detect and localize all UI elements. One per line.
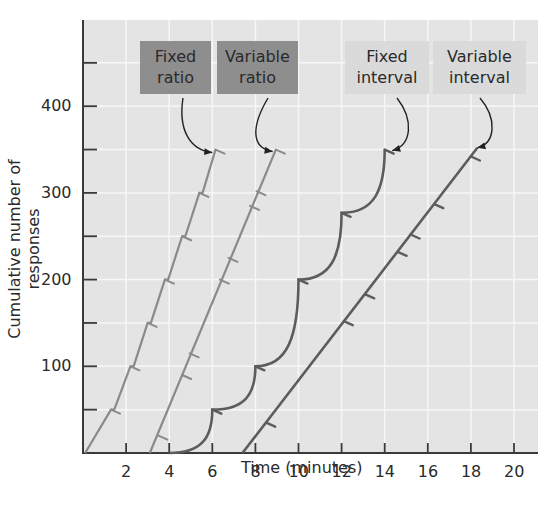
- x-tick-label: 16: [418, 462, 438, 481]
- x-tick-label: 12: [332, 462, 352, 481]
- label-fixed-interval-line1: Fixed: [345, 46, 429, 67]
- label-fixed-ratio: Fixed ratio: [140, 41, 211, 94]
- label-variable-interval-line2: interval: [433, 67, 526, 88]
- x-tick-label: 14: [375, 462, 395, 481]
- label-variable-interval: Variable interval: [433, 41, 526, 94]
- y-axis-label: Cumulative number of responses: [5, 129, 43, 369]
- label-variable-ratio-line1: Variable: [217, 46, 298, 67]
- y-tick-label: 400: [41, 96, 72, 115]
- x-tick-label: 20: [504, 462, 524, 481]
- y-tick-label: 300: [41, 183, 72, 202]
- x-tick-label: 18: [461, 462, 481, 481]
- label-fixed-interval: Fixed interval: [345, 41, 429, 94]
- label-fixed-ratio-line2: ratio: [140, 67, 211, 88]
- label-fixed-ratio-line1: Fixed: [140, 46, 211, 67]
- x-tick-label: 2: [121, 462, 131, 481]
- x-tick-label: 8: [250, 462, 260, 481]
- x-tick-label: 10: [289, 462, 309, 481]
- label-variable-ratio-line2: ratio: [217, 67, 298, 88]
- label-variable-interval-line1: Variable: [433, 46, 526, 67]
- label-variable-ratio: Variable ratio: [217, 41, 298, 94]
- y-tick-label: 100: [41, 356, 72, 375]
- x-tick-label: 4: [164, 462, 174, 481]
- x-tick-label: 6: [207, 462, 217, 481]
- y-tick-label: 200: [41, 270, 72, 289]
- label-fixed-interval-line2: interval: [345, 67, 429, 88]
